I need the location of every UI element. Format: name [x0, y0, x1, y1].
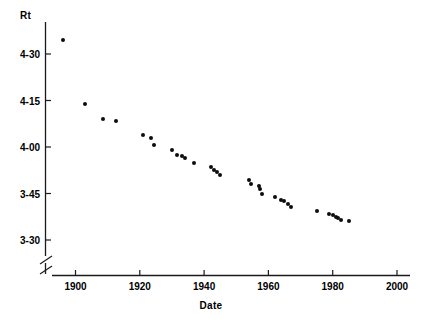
data-point	[289, 205, 293, 209]
data-point	[315, 209, 319, 213]
plot-axes-svg	[0, 0, 422, 326]
chart-figure: Rt Date 4-304-154-003-453-30 19001920194…	[0, 0, 422, 326]
data-point	[247, 178, 251, 182]
x-tick-label: 1960	[257, 281, 279, 292]
x-tick-label: 1900	[64, 281, 86, 292]
data-point	[83, 102, 87, 106]
data-point	[170, 148, 174, 152]
data-point	[152, 143, 156, 147]
data-point	[101, 117, 105, 121]
data-point	[141, 133, 145, 137]
axis-lines	[40, 22, 410, 276]
y-tick-label: 3-45	[0, 188, 40, 199]
data-point	[218, 173, 222, 177]
data-point	[260, 192, 264, 196]
y-tick-label: 4-30	[0, 49, 40, 60]
x-tick-label: 1940	[193, 281, 215, 292]
data-point	[249, 182, 253, 186]
y-tick-label: 4-00	[0, 142, 40, 153]
data-point	[258, 187, 262, 191]
data-point	[192, 161, 196, 165]
data-point	[149, 136, 153, 140]
data-point	[183, 156, 187, 160]
data-point	[61, 38, 65, 42]
x-tick-label: 2000	[386, 281, 408, 292]
x-tick-label: 1920	[129, 281, 151, 292]
data-point	[114, 119, 118, 123]
data-point	[339, 218, 343, 222]
y-tick-label: 4-15	[0, 95, 40, 106]
data-point	[347, 219, 351, 223]
x-tick-label: 1980	[322, 281, 344, 292]
y-tick-label: 3-30	[0, 235, 40, 246]
data-point	[273, 195, 277, 199]
data-point	[175, 153, 179, 157]
tick-marks	[46, 54, 398, 276]
